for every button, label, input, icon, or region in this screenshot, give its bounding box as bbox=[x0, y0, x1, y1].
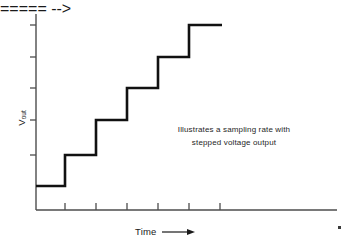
y-axis-title-subscript: out bbox=[20, 110, 27, 119]
arrow-right-icon bbox=[162, 228, 196, 236]
x-axis-title-text: Time bbox=[135, 226, 157, 237]
y-axis-title-base: V bbox=[16, 119, 27, 126]
chart-annotation-line-2: stepped voltage output bbox=[163, 136, 305, 149]
y-axis-title: Vout bbox=[0, 111, 43, 125]
y-axis-ticks bbox=[30, 25, 36, 155]
axes-group bbox=[36, 14, 337, 210]
chart-annotation: Illustrates a sampling rate with stepped… bbox=[163, 123, 305, 149]
chart-annotation-line-1: Illustrates a sampling rate with bbox=[163, 123, 305, 136]
step-waveform-series bbox=[36, 25, 222, 186]
x-axis-ticks bbox=[65, 203, 220, 210]
corner-mark bbox=[338, 226, 341, 229]
x-axis-title: Time bbox=[135, 226, 196, 237]
figure-stepped-voltage-chart: Vout ===== --> Time Illustrates a sampli… bbox=[0, 0, 351, 245]
